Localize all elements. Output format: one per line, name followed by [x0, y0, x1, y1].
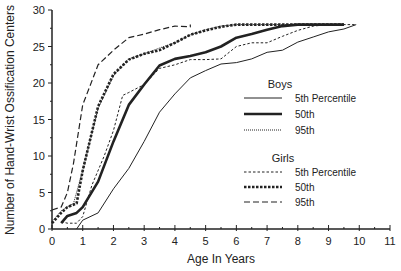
legend-label: 5th Percentile [295, 93, 357, 104]
legend-label: 50th [295, 182, 314, 193]
x-tick-label: 11 [384, 235, 395, 247]
y-tick-label: 15 [33, 114, 45, 126]
chart-canvas: 05101520253001234567891011 Boys5th Perce… [0, 0, 401, 271]
x-tick-label: 9 [325, 235, 331, 247]
legend-label: 50th [295, 109, 314, 120]
legend-title-girls: Girls [272, 152, 295, 164]
x-tick-label: 8 [295, 235, 301, 247]
x-tick-label: 2 [110, 235, 116, 247]
y-tick-label: 10 [33, 150, 45, 162]
y-tick-label: 30 [33, 4, 45, 16]
legend-label: 95th [295, 125, 314, 136]
legend: Boys5th Percentile50th95thGirls5th Perce… [244, 78, 357, 208]
x-axis-title: Age In Years [187, 252, 255, 266]
legend-label: 95th [295, 197, 314, 208]
ossification-chart: 05101520253001234567891011 Boys5th Perce… [0, 0, 401, 271]
legend-title-boys: Boys [268, 78, 293, 90]
y-tick-label: 25 [33, 41, 45, 53]
x-tick-label: 1 [80, 235, 86, 247]
x-tick-label: 10 [353, 235, 365, 247]
x-tick-label: 3 [141, 235, 147, 247]
y-axis-title: Number of Hand-Wrist Ossification Center… [3, 5, 17, 235]
y-tick-label: 5 [39, 187, 45, 199]
y-tick-label: 20 [33, 77, 45, 89]
legend-label: 5th Percentile [295, 167, 357, 178]
series-line-girls-5th-percentile [61, 25, 356, 224]
axes: 05101520253001234567891011 [33, 4, 396, 247]
series-line-girls-95th [52, 25, 190, 210]
x-tick-label: 6 [233, 235, 239, 247]
y-tick-label: 0 [39, 223, 45, 235]
x-tick-label: 0 [49, 235, 55, 247]
x-tick-label: 4 [172, 235, 178, 247]
x-tick-label: 7 [264, 235, 270, 247]
x-tick-label: 5 [203, 235, 209, 247]
series-line-boys-50th [61, 25, 344, 224]
